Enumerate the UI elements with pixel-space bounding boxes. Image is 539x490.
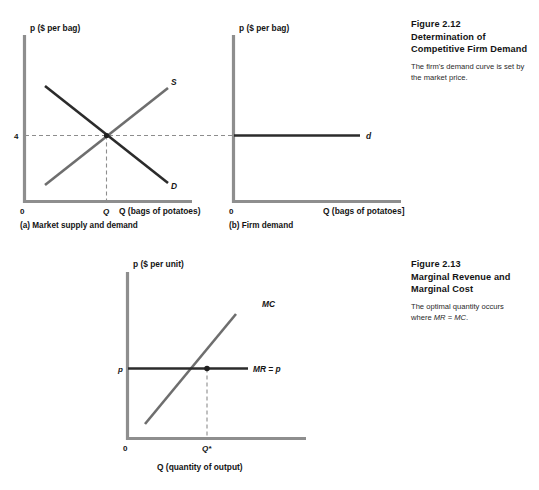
panel-c-origin-label: 0 (123, 444, 128, 453)
figure-2-13-title-line1: Marginal Revenue and (411, 271, 533, 284)
equilibrium-point (104, 133, 109, 138)
desc-pre: where (411, 313, 434, 322)
supply-curve (45, 88, 168, 185)
panel-a-label: (a) Market supply and demand (20, 221, 138, 230)
panel-c-x-tick-qstar: Q* (202, 444, 212, 453)
figure-2-13-caption: Figure 2.13 Marginal Revenue and Margina… (411, 258, 533, 323)
figure-2-13-description-line2: where MR = MC. (411, 312, 533, 323)
panel-b-x-axis-title: Q (bags of potatoes] (323, 206, 405, 216)
panel-a-x-tick-q: Q (103, 207, 110, 216)
figure-2-12-description-line1: The firm's demand curve is set by (411, 61, 533, 72)
panel-c-axes (126, 272, 306, 440)
panel-a-origin-label: 0 (20, 207, 25, 216)
marginal-cost-curve (145, 314, 236, 424)
figure-2-13-number: Figure 2.13 (411, 258, 533, 271)
marginal-cost-curve-label: MC (262, 299, 276, 309)
marginal-revenue-curve-label: MR = p (253, 364, 281, 374)
figure-2-12-description-line2: the market price. (411, 72, 533, 83)
panel-b-label: (b) Firm demand (229, 221, 293, 230)
figure-2-12-title-line2: Competitive Firm Demand (411, 43, 533, 56)
panel-c-x-axis-title: Q (quantity of output) (157, 462, 243, 472)
desc-mc: MC (454, 313, 466, 322)
demand-curve-label: D (171, 181, 177, 191)
panel-a-x-axis-title: Q (bags of potatoes) (119, 206, 201, 216)
panel-c-y-tick-p: p (117, 365, 123, 374)
optimum-point (204, 366, 210, 372)
panel-a-y-axis-title: p ($ per bag) (30, 23, 80, 33)
figure-2-13-title-line2: Marginal Cost (411, 283, 533, 296)
supply-curve-label: S (171, 77, 177, 87)
desc-mr: MR (434, 313, 446, 322)
panel-a-y-tick-4: 4 (14, 132, 19, 141)
firm-demand-curve-label: d (366, 131, 372, 141)
figure-2-12-caption: Figure 2.12 Determination of Competitive… (411, 18, 533, 83)
panel-b-y-axis-title: p ($ per bag) (239, 23, 289, 33)
panel-b-axes (232, 35, 401, 203)
desc-post: . (466, 313, 468, 322)
figure-2-13-description-line1: The optimal quantity occurs (411, 301, 533, 312)
figure-2-12-number: Figure 2.12 (411, 18, 533, 31)
panel-c-y-axis-title: p ($ per unit) (133, 259, 184, 269)
demand-curve (45, 86, 168, 183)
panel-b-origin-label: 0 (229, 207, 234, 216)
panel-a-axes (23, 35, 192, 203)
textbook-figure-page: p ($ per bag) 4 0 Q Q (bags of potatoes)… (0, 0, 539, 490)
figure-2-12-title-line1: Determination of (411, 31, 533, 44)
desc-eq: = (446, 313, 455, 322)
